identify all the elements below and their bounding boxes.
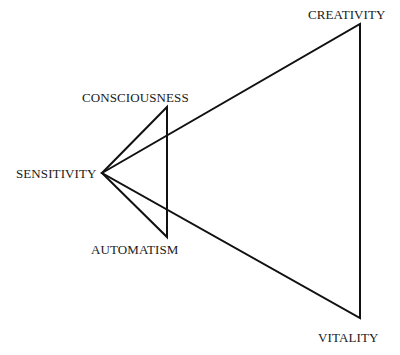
node-label-creativity: CREATIVITY: [308, 8, 386, 21]
small-triangle: [102, 107, 167, 237]
node-label-consciousness: CONSCIOUSNESS: [82, 91, 189, 104]
node-label-automatism: AUTOMATISM: [91, 243, 178, 256]
node-label-sensitivity: SENSITIVITY: [16, 167, 97, 180]
node-label-vitality: VITALITY: [318, 331, 378, 344]
triangle-diagram: SENSITIVITY CONSCIOUSNESS AUTOMATISM CRE…: [0, 0, 400, 355]
large-triangle: [102, 24, 360, 318]
